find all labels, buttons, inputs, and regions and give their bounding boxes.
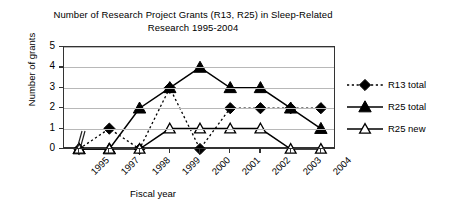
chart-title: Number of Research Project Grants (R13, … — [48, 8, 338, 34]
x-axis-tick — [78, 148, 79, 153]
chart-figure: Number of Research Project Grants (R13, … — [0, 0, 456, 209]
x-axis-tick — [320, 148, 321, 153]
x-axis-tick-label: 2001 — [240, 155, 262, 177]
gridline — [64, 88, 334, 89]
legend-sample — [345, 96, 385, 118]
gridline — [64, 108, 334, 109]
x-axis-tick — [259, 148, 260, 153]
gridline — [64, 47, 334, 48]
x-axis-tick-label: 1999 — [180, 155, 202, 177]
legend-item: R25 new — [345, 118, 453, 140]
y-axis-tick-label: 2 — [41, 102, 55, 112]
x-axis-tick — [108, 148, 109, 153]
y-axis-line — [63, 46, 64, 148]
legend-label: R25 new — [388, 123, 426, 134]
x-axis-tick-label: 1995 — [89, 155, 111, 177]
y-axis-tick — [59, 46, 63, 47]
legend-sample — [345, 118, 385, 140]
y-axis-tick-label: 1 — [41, 123, 55, 133]
x-axis-tick-label: 2003 — [301, 155, 323, 177]
y-axis-tick — [59, 148, 63, 149]
series-r13-total — [74, 82, 327, 154]
x-axis-tick — [229, 148, 230, 153]
legend-sample — [345, 74, 385, 96]
legend-label: R13 total — [388, 79, 426, 90]
gridline — [64, 67, 334, 68]
legend-marker — [359, 79, 370, 90]
y-axis-tick-label: 5 — [41, 41, 55, 51]
gridline — [64, 129, 334, 130]
x-axis-title: Fiscal year — [130, 188, 176, 199]
series-layer — [64, 47, 336, 149]
x-axis-tick-label: 2002 — [271, 155, 293, 177]
x-axis-tick — [139, 148, 140, 153]
x-axis-tick-label: 2000 — [210, 155, 232, 177]
y-axis-tick-label: 3 — [41, 82, 55, 92]
x-axis-break-icon — [73, 129, 87, 151]
legend-item: R25 total — [345, 96, 453, 118]
y-axis-tick-label: 4 — [41, 61, 55, 71]
chart-legend: R13 totalR25 totalR25 new — [345, 74, 453, 140]
y-axis-tick — [59, 87, 63, 88]
plot-area — [63, 46, 335, 148]
legend-label: R25 total — [388, 101, 426, 112]
legend-item: R13 total — [345, 74, 453, 96]
x-axis-tick — [169, 148, 170, 153]
y-axis-tick — [59, 66, 63, 67]
y-axis-title: Number of grants — [26, 18, 37, 122]
x-axis-tick-label: 2004 — [331, 155, 353, 177]
y-axis-tick — [59, 128, 63, 129]
x-axis-tick-label: 1998 — [150, 155, 172, 177]
x-axis-tick-label: 1997 — [120, 155, 142, 177]
x-axis-tick — [290, 148, 291, 153]
x-axis-tick — [199, 148, 200, 153]
y-axis-tick-label: 0 — [41, 143, 55, 153]
y-axis-tick — [59, 107, 63, 108]
